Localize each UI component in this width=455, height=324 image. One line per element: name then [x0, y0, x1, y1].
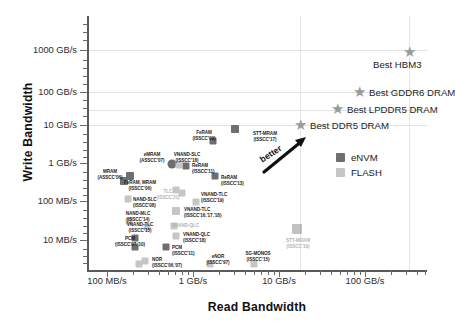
label-name: NAND-MLC: [126, 211, 150, 216]
y-minor-tick: [83, 142, 88, 143]
x-minor-tick: [245, 270, 246, 275]
x-minor-tick: [406, 270, 407, 275]
y-minor-tick: [83, 116, 88, 117]
point-stt-mram-17: [231, 125, 239, 133]
star-marker-ddr5: ★: [294, 117, 307, 132]
y-minor-tick: [83, 24, 88, 25]
label-venue: (ISSCC'09): [193, 136, 216, 141]
y-minor-tick: [83, 180, 88, 181]
y-tick-100gbs: [80, 92, 87, 93]
y-minor-tick: [83, 40, 88, 41]
label-vnand-qlc-18: VNAND-QLC (ISSCC'18): [183, 232, 210, 243]
label-venue: (ISSCC'15): [129, 228, 152, 233]
label-feram-mram-06: FeRAM, MRAM (ISSCC'06): [124, 180, 156, 191]
label-venue: (ISSCC'19): [287, 244, 310, 249]
label-nand-slc-08: NAND-SLC (ISSCC'08): [133, 197, 157, 208]
y-minor-tick: [83, 233, 88, 234]
x-minor-tick: [354, 270, 355, 275]
label-nor-0607: NOR (ISSCC'06,'07): [152, 257, 182, 268]
y-minor-tick: [83, 108, 88, 109]
label-venue: (ISSCC'07,'10): [115, 242, 145, 247]
x-minor-tick: [305, 270, 306, 275]
label-name: PCM: [125, 236, 135, 241]
label-name: NAND-SLC: [133, 197, 157, 202]
star-label-gddr6: Best GDDR6 DRAM: [369, 87, 455, 98]
x-tick-label-1gbs: 1 GB/s: [179, 276, 207, 286]
x-minor-tick: [320, 270, 321, 275]
y-minor-tick: [83, 172, 88, 173]
x-minor-tick: [268, 270, 269, 275]
label-venue: (ASSCC'07): [140, 158, 165, 163]
y-tick-label-10mbs: 10 MB/s: [7, 235, 77, 245]
x-tick-label-100mbs: 100 MB/s: [87, 276, 126, 286]
label-name: eMRAM: [144, 152, 161, 157]
x-minor-tick: [391, 270, 392, 275]
label-pcm-0710: PCM (ISSCC'07,'10): [115, 236, 145, 247]
star-marker-gddr6: ★: [353, 84, 366, 99]
y-minor-tick: [83, 226, 88, 227]
legend-label-flash: FLASH: [351, 167, 382, 178]
label-mram-06: MRAM (ASSCC'06): [98, 169, 123, 180]
x-minor-tick: [254, 270, 255, 275]
gridline-1000gbs: [87, 50, 427, 51]
star-marker-lpddr5: ★: [331, 101, 344, 116]
legend-item-envm: eNVM: [336, 152, 382, 163]
label-name: FeRAM, MRAM: [124, 180, 156, 185]
legend-label-envm: eNVM: [351, 152, 378, 163]
label-enor-97: eNOR (ISSCC'97): [207, 254, 230, 265]
label-venue: (ISSCC'13): [221, 181, 244, 186]
y-minor-tick: [83, 263, 88, 264]
label-venue: (ISSCC'17): [254, 137, 277, 142]
y-minor-tick: [83, 68, 88, 69]
point-nand-slc-08: [125, 196, 132, 203]
label-venue: (ISSCC'11): [192, 169, 215, 174]
label-vnand-tlc-19: VNAND-TLC (ISSCC'19): [201, 192, 227, 203]
x-minor-tick: [175, 270, 176, 275]
y-minor-tick: [83, 32, 88, 33]
label-venue: (ISSCC'06): [129, 186, 152, 191]
y-minor-tick: [83, 195, 88, 196]
x-minor-tick: [188, 270, 189, 275]
label-vnand-qlc-18-faded: VNAND-QLC: [172, 223, 199, 229]
x-minor-tick: [133, 270, 134, 275]
point-vnand-tlc-19: [193, 199, 200, 206]
point-pcm-11: [163, 244, 170, 251]
x-minor-tick: [347, 270, 348, 275]
y-minor-tick: [83, 249, 88, 250]
label-name: VNAND-TLC: [127, 222, 153, 227]
y-tick-10mbs: [80, 240, 87, 241]
label-name: PCM: [172, 245, 182, 250]
label-name: NOR: [152, 257, 162, 262]
y-minor-tick: [83, 150, 88, 151]
star-marker-hbm3: ★: [403, 44, 416, 59]
star-label-ddr5: Best DDR5 DRAM: [310, 120, 389, 131]
y-minor-tick: [83, 100, 88, 101]
x-minor-tick: [340, 270, 341, 275]
label-venue: (ISSCC'18): [176, 158, 199, 163]
y-minor-tick: [83, 256, 88, 257]
label-reram-11: ReRAM (ISSCC'11): [192, 163, 215, 174]
label-stt-mram-19: STT-MRAM (ISSCC'19): [286, 238, 310, 249]
y-tick-label-10gbs: 10 GB/s: [7, 120, 77, 130]
label-venue: (ISSCC'08): [133, 203, 156, 208]
point-vnand-tlc-161718: [172, 207, 180, 215]
x-minor-tick: [425, 270, 426, 275]
label-name: STT-MRAM: [253, 131, 277, 136]
label-name: eNOR: [212, 254, 225, 259]
label-name: VNAND-TLC: [184, 207, 210, 212]
legend-swatch-flash: [336, 168, 345, 177]
label-venue: (ISSCC'21): [157, 195, 180, 200]
y-tick-label-1gbs: 1 GB/s: [7, 158, 77, 168]
label-name: FeRAM: [196, 130, 212, 135]
point-nor-0607-a: [142, 258, 149, 265]
y-minor-tick: [83, 134, 88, 135]
label-venue: (ISSCC'19): [201, 198, 224, 203]
x-minor-tick: [331, 270, 332, 275]
label-name: ReRAM: [221, 175, 237, 180]
chart-legend: eNVM FLASH: [336, 152, 382, 182]
x-axis-title: Read Bandwidth: [87, 300, 427, 314]
x-minor-tick: [274, 270, 275, 275]
label-vnand-slc-18: VNAND-SLC (ISSCC'18): [174, 152, 201, 163]
x-minor-tick: [417, 270, 418, 275]
